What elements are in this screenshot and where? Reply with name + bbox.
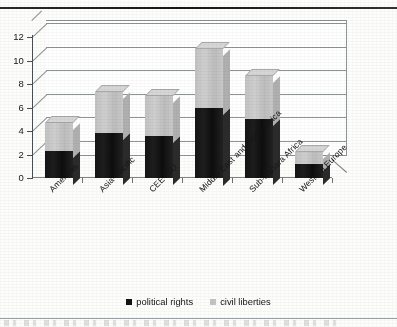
legend-item-civil-liberties: civil liberties [210,296,271,307]
light-square-icon [210,299,216,305]
x-tick-4 [282,178,283,183]
y-tick-10 [27,61,33,62]
y-tick-12 [27,37,33,38]
bar-side-civil-liberties-3 [223,49,230,115]
page-bottom-ghost-text [4,320,344,326]
bar-middle-east-and-north-africa [195,9,223,178]
y-axis [32,35,33,178]
bar-asia-pacific [95,9,123,178]
stacked-bar-chart: 024681012 AmericasAsia-PacificCEE-fSUMid… [0,9,397,309]
y-axis-label-12: 12 [4,31,24,42]
bar-americas [45,9,73,178]
x-tick-5 [332,178,333,183]
chart-top-edge [31,11,42,21]
bar-side-political-rights-4 [273,119,280,185]
y-tick-6 [27,108,33,109]
x-tick-3 [232,178,233,183]
legend-label-political-rights: political rights [136,296,193,307]
y-tick-2 [27,155,33,156]
x-tick-2 [182,178,183,183]
y-tick-4 [27,131,33,132]
bar-segment-civil-liberties-5 [295,152,323,164]
bar-segment-civil-liberties-1 [95,92,123,133]
y-axis-label-2: 2 [4,149,24,160]
bar-segment-civil-liberties-4 [245,76,273,119]
legend-label-civil-liberties: civil liberties [220,296,271,307]
bar-cee-fsu [145,9,173,178]
y-tick-8 [27,84,33,85]
bar-western-europe [295,9,323,178]
y-tick-0 [27,178,33,179]
scanned-page: 024681012 AmericasAsia-PacificCEE-fSUMid… [0,0,397,327]
bar-segment-civil-liberties-0 [45,123,73,151]
y-axis-label-10: 10 [4,55,24,66]
x-tick-1 [132,178,133,183]
x-tick-0 [82,178,83,183]
y-axis-label-6: 6 [4,102,24,113]
legend-item-political-rights: political rights [126,296,193,307]
page-bottom-rule [0,318,397,319]
bar-segment-civil-liberties-3 [195,49,223,108]
chart-legend: political rights civil liberties [0,296,397,307]
dark-square-icon [126,299,132,305]
bar-segment-civil-liberties-2 [145,96,173,136]
bar-sub-sahara-africa [245,9,273,178]
y-axis-label-4: 4 [4,125,24,136]
y-axis-label-8: 8 [4,78,24,89]
bar-side-political-rights-2 [173,136,180,185]
y-axis-label-0: 0 [4,172,24,183]
